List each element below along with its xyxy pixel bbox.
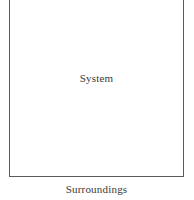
surroundings-label: Surroundings bbox=[9, 183, 184, 195]
system-boundary: System bbox=[9, 0, 184, 177]
system-label: System bbox=[10, 72, 183, 84]
